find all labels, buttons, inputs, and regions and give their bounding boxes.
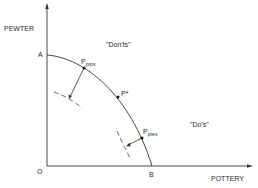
pros-arrowhead-icon — [69, 95, 73, 100]
x-axis-label: POTTERY — [211, 175, 244, 182]
y-axis-arrow-icon — [45, 3, 49, 9]
p-pres-label: Ppres — [143, 128, 157, 137]
region-donts-label: "Don'ts" — [106, 41, 131, 48]
region-dos-label: "Do's" — [190, 121, 209, 128]
frontier-curve — [47, 55, 152, 166]
diagram-canvas — [0, 0, 258, 188]
point-b-label: B — [149, 171, 154, 178]
origin-label: O — [37, 168, 42, 175]
y-axis-label: PEWTER — [4, 25, 34, 32]
pros-arrow — [70, 68, 84, 97]
p-pros-label: Ppros — [81, 58, 95, 67]
pres-arrowhead-icon — [126, 143, 131, 147]
p-star-label: P* — [121, 90, 128, 97]
p-pros-sub: pros — [86, 61, 96, 67]
x-axis-arrow-icon — [247, 164, 253, 168]
shifted-curve-pros — [54, 92, 82, 108]
point-a-label: A — [38, 51, 43, 58]
p-star-point — [117, 96, 120, 99]
p-pres-sub: pres — [148, 131, 158, 137]
